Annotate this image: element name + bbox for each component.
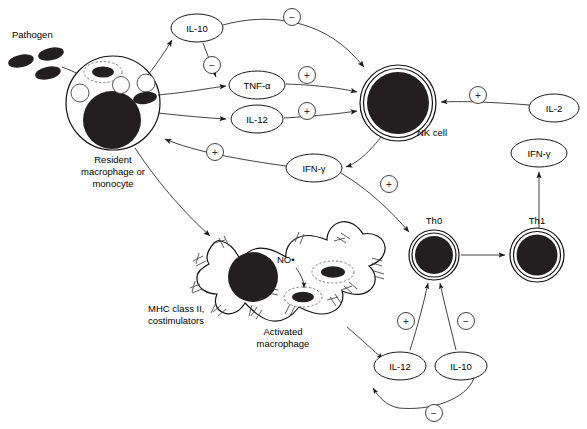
mediator-il2[interactable]: IL-2 bbox=[529, 94, 579, 122]
arrow-il10-inhibits-nk bbox=[223, 19, 364, 67]
vacuole bbox=[71, 84, 89, 102]
mediator-label: IFN-γ bbox=[527, 148, 550, 159]
sign-symbol: − bbox=[463, 316, 469, 327]
sign-il12-activates-th0: + bbox=[398, 313, 415, 330]
arrow-macrophage-to-tnf bbox=[158, 86, 226, 95]
mediator-il10-bottom[interactable]: IL-10 bbox=[435, 352, 487, 380]
th1-cell bbox=[510, 228, 564, 282]
arrow-macrophage-to-activated-macrophage bbox=[135, 148, 210, 236]
sign-symbol: + bbox=[386, 179, 392, 190]
mediator-label: IL-12 bbox=[246, 114, 268, 125]
th1-label: Th1 bbox=[529, 215, 545, 226]
mediator-label: IL-10 bbox=[450, 361, 472, 372]
diagram-canvas: IL-10 TNF-α IL-12 IL-2 IFN-γ IFN-γ IL-12 bbox=[0, 0, 587, 429]
sign-symbol: + bbox=[403, 316, 409, 327]
sign-symbol: + bbox=[212, 147, 218, 158]
th1-nucleus bbox=[517, 235, 558, 276]
sign-symbol: + bbox=[304, 70, 310, 81]
sign-il10-inhibits-tnf: − bbox=[204, 57, 221, 74]
arrow-il10-inhibits-il12 bbox=[373, 378, 474, 408]
sign-ifng-activates-macrophage: + bbox=[207, 144, 224, 161]
arrow-macrophage-to-il10 bbox=[148, 40, 172, 75]
arrow-ifng-activates-macrophage bbox=[165, 139, 286, 166]
mediator-il12-bottom[interactable]: IL-12 bbox=[374, 352, 426, 380]
arrow-il12-activates-nk bbox=[284, 111, 357, 118]
activated-macrophage-outline bbox=[197, 222, 385, 321]
pathogen-group bbox=[7, 45, 65, 82]
th0-nucleus bbox=[415, 236, 453, 274]
sign-symbol: − bbox=[209, 60, 215, 71]
mediator-ifn-gamma-th1[interactable]: IFN-γ bbox=[511, 139, 567, 167]
mediator-label: IFN-γ bbox=[302, 163, 325, 174]
engulfed-pathogen bbox=[92, 67, 114, 78]
sign-il10-inhibits-il12: − bbox=[426, 405, 443, 422]
mediator-label: IL-10 bbox=[186, 23, 208, 34]
activated-macrophage-label-line1: Activated bbox=[263, 326, 302, 337]
sign-symbol: + bbox=[304, 106, 310, 117]
arrow-macrophage-to-il12 bbox=[158, 113, 226, 119]
sign-symbol: + bbox=[475, 90, 481, 101]
resident-macrophage-label-line1: Resident bbox=[94, 154, 132, 165]
mhc-label-line2: costimulators bbox=[148, 315, 204, 326]
nitric-oxide-label: NO• bbox=[277, 254, 295, 265]
mediator-tnf-alpha[interactable]: TNF-α bbox=[229, 71, 285, 99]
sign-tnf-activates-nk: + bbox=[299, 67, 316, 84]
vacuole bbox=[113, 77, 130, 94]
engulfed-pathogen bbox=[292, 292, 314, 302]
immune-pathway-diagram: IL-10 TNF-α IL-12 IL-2 IFN-γ IFN-γ IL-12 bbox=[0, 0, 587, 429]
activated-macrophage-cell bbox=[190, 222, 385, 321]
resident-macrophage-cell bbox=[66, 56, 160, 150]
resident-macrophage-label-line3: monocyte bbox=[92, 178, 133, 189]
nk-cell-nucleus bbox=[367, 72, 429, 134]
mediator-il10-top[interactable]: IL-10 bbox=[171, 14, 223, 42]
arrow-nk-to-ifng bbox=[346, 137, 381, 167]
mediator-il12-top[interactable]: IL-12 bbox=[231, 105, 283, 133]
activated-macrophage-label-line2: macrophage bbox=[257, 338, 310, 349]
engulfed-pathogen bbox=[321, 266, 345, 278]
arrow-activated-macrophage-to-il12 bbox=[347, 327, 383, 359]
th0-label: Th0 bbox=[426, 215, 442, 226]
sign-il10-inhibits-th0: − bbox=[458, 313, 475, 330]
mediator-label: TNF-α bbox=[243, 80, 271, 91]
pathogen-label: Pathogen bbox=[12, 29, 53, 40]
sign-symbol: − bbox=[431, 408, 437, 419]
pathogen-particle bbox=[34, 64, 62, 82]
nk-cell-label: NK cell bbox=[417, 127, 447, 138]
sign-ifng-activates-th0: + bbox=[381, 176, 398, 193]
resident-macrophage-nucleus bbox=[83, 91, 141, 149]
resident-macrophage-label-line2: macrophage or bbox=[81, 166, 145, 177]
sign-il10-inhibits-nk: − bbox=[284, 9, 301, 26]
mhc-label-line1: MHC class II, bbox=[148, 303, 204, 314]
arrow-il2-activates-nk bbox=[441, 102, 529, 105]
activated-macrophage-nucleus bbox=[228, 252, 278, 302]
pathogen-particle bbox=[7, 52, 35, 70]
pathogen-particle bbox=[37, 45, 65, 63]
mediator-ifn-gamma-middle[interactable]: IFN-γ bbox=[286, 154, 342, 182]
arrow-il10-inhibits-th0 bbox=[440, 283, 456, 350]
th0-cell bbox=[409, 230, 459, 280]
vacuole bbox=[137, 74, 155, 92]
mediator-label: IL-2 bbox=[546, 103, 562, 114]
arrow-tnf-activates-nk bbox=[286, 84, 357, 92]
sign-il2-activates-nk: + bbox=[470, 87, 487, 104]
sign-symbol: − bbox=[289, 12, 295, 23]
mediator-label: IL-12 bbox=[389, 361, 411, 372]
sign-il12-activates-nk: + bbox=[299, 103, 316, 120]
